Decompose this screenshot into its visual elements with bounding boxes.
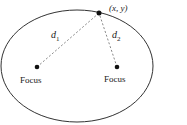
focus-right (115, 65, 120, 70)
d1-label: d1 (51, 29, 60, 43)
ellipse (1, 10, 153, 122)
point-label: (x, y) (109, 3, 127, 13)
point-xy (97, 11, 102, 16)
distance-line-d2 (99, 13, 117, 67)
distance-line-d1 (37, 13, 99, 67)
ellipse-diagram: (x, y) d1 d2 Focus Focus (0, 0, 187, 125)
d2-label: d2 (112, 29, 121, 43)
focus-right-label: Focus (104, 74, 126, 84)
focus-left-label: Focus (20, 75, 42, 85)
focus-left (35, 65, 40, 70)
